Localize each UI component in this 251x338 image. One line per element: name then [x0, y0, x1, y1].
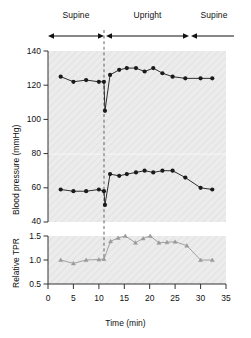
xtick-5: 5 [63, 293, 83, 303]
plot-area-background-bp [48, 51, 226, 222]
x-axis-time [48, 284, 226, 289]
xtick-0: 0 [38, 293, 58, 303]
ytick-tpr-1-5: 1.5 [7, 231, 41, 241]
ytick-bp-120: 120 [7, 80, 41, 90]
xtick-35: 35 [216, 293, 236, 303]
ytick-bp-40: 40 [7, 216, 41, 226]
xtick-30: 30 [191, 293, 211, 303]
ytick-tpr-0-5: 0.5 [7, 279, 41, 289]
ytick-tpr-1-0: 1.0 [7, 255, 41, 265]
ytick-bp-140: 140 [7, 46, 41, 56]
xtick-10: 10 [89, 293, 109, 303]
y-axis-blood-pressure [44, 51, 49, 222]
xtick-20: 20 [140, 293, 160, 303]
xtick-15: 15 [114, 293, 134, 303]
ytick-bp-100: 100 [7, 114, 41, 124]
phase-arrow-supine-2 [191, 33, 234, 39]
ytick-bp-80: 80 [7, 148, 41, 158]
phase-arrow-upright [106, 33, 189, 39]
figure-root: Supine Upright Supine systolic pressure … [0, 0, 251, 338]
phase-arrow-supine-1 [48, 33, 104, 39]
y-axis-relative-tpr [44, 236, 49, 284]
ytick-bp-60: 60 [7, 182, 41, 192]
xtick-25: 25 [165, 293, 185, 303]
